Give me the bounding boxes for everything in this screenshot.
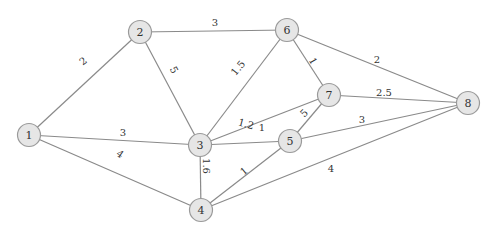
edge-1-3 [29, 135, 200, 145]
graph-canvas: 234351.51212.51.2531.614 12345678 [0, 0, 493, 234]
edge-2-6 [140, 30, 287, 32]
node-7: 7 [318, 84, 341, 107]
edge-weight-6-3: 1.5 [229, 58, 248, 77]
node-label: 3 [197, 139, 204, 152]
node-label: 1 [26, 129, 33, 142]
node-5: 5 [279, 130, 302, 153]
edge-3-5 [200, 141, 290, 145]
node-label: 7 [326, 89, 333, 102]
node-8: 8 [457, 92, 480, 115]
edge-weight-7-8: 2.5 [376, 87, 392, 98]
node-label: 4 [198, 204, 205, 217]
node-label: 2 [137, 26, 144, 39]
node-label: 5 [287, 135, 294, 148]
edge-weight-3-4: 1.6 [201, 158, 212, 174]
node-label: 6 [284, 24, 291, 37]
node-6: 6 [276, 19, 299, 42]
edge-weight-7-5: 5 [298, 107, 310, 119]
edge-labels-layer: 234351.51212.51.2531.614 [77, 17, 392, 178]
edge-1-2 [29, 32, 140, 135]
edge-1-4 [29, 135, 201, 210]
edge-weight-2-6: 3 [212, 17, 218, 28]
node-3: 3 [189, 134, 212, 157]
edge-weight-1-4: 4 [114, 148, 126, 161]
edge-weight-2-3: 5 [168, 65, 181, 76]
edge-weight-3-7: 1 [259, 122, 265, 133]
node-2: 2 [129, 21, 152, 44]
edge-7-8 [329, 95, 468, 103]
node-label: 8 [465, 97, 472, 110]
edge-weight-4-8: 4 [328, 163, 334, 174]
edge-weight-1-2: 2 [77, 55, 89, 68]
node-4: 4 [190, 199, 213, 222]
edge-weight-4-5: 1 [238, 165, 250, 178]
node-1: 1 [18, 124, 41, 147]
edge-weight-6-8: 2 [374, 54, 380, 65]
edge-weight-6-7: 1 [307, 55, 320, 66]
edge-weight-1-3: 3 [120, 127, 126, 138]
edge-2-3 [140, 32, 200, 145]
edge-weight-5-8: 3 [359, 114, 365, 125]
